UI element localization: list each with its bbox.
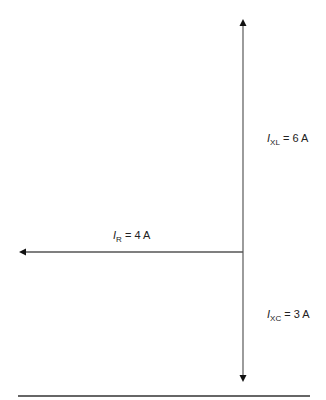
phasor-diagram (0, 0, 326, 400)
ir-value: = 4 A (125, 229, 150, 241)
ixl-subscript: XL (270, 138, 280, 147)
arrowhead-down-icon (240, 375, 247, 382)
ixl-label: IXL = 6 A (267, 132, 308, 147)
ixl-value: = 6 A (283, 132, 308, 144)
ixc-label: IXC = 3 A (267, 308, 310, 323)
ixc-value: = 3 A (284, 308, 309, 320)
ir-subscript: R (116, 235, 122, 244)
arrowhead-left-icon (19, 249, 26, 256)
ir-label: IR = 4 A (113, 229, 150, 244)
arrowhead-up-icon (240, 19, 247, 26)
ixc-subscript: XC (270, 314, 281, 323)
